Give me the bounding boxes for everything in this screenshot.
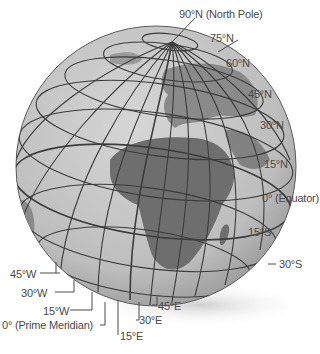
label-15n: 15°N [264,158,288,170]
label-30e: 30°E [139,314,162,326]
label-30w: 30°W [21,287,47,299]
label-30s: 30°S [279,258,302,270]
label-15e: 15°E [120,330,143,342]
label-60n: 60°N [226,57,250,69]
label-45e: 45°E [158,300,181,312]
label-15w: 15°W [43,305,69,317]
label-45w: 45°W [10,268,36,280]
label-equator: 0° (Equator) [262,192,319,204]
label-45n: 45°N [248,88,272,100]
label-75n: 75°N [210,32,234,44]
label-north-pole: 90°N (North Pole) [179,8,263,20]
label-30n: 30°N [260,119,284,131]
label-15s: 15°S [248,226,271,238]
label-prime-meridian: 0° (Prime Meridian) [2,319,93,331]
